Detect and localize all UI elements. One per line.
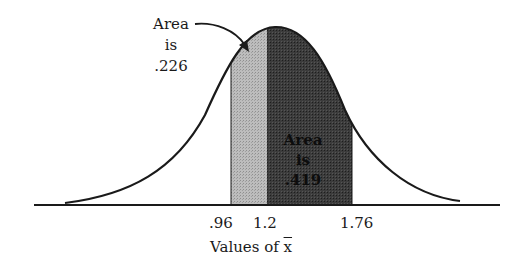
left-area-line2: is — [146, 35, 196, 56]
inner-area-line1: Area — [278, 130, 328, 150]
pointer-arrow — [195, 24, 245, 45]
left-area-label: Area is .226 — [146, 14, 196, 77]
x-bar-symbol: x — [284, 238, 292, 256]
inner-area-line3: .419 — [278, 170, 328, 190]
x-axis-label: Values of x — [210, 238, 292, 256]
left-area-line1: Area — [146, 14, 196, 35]
tick-label-12: 1.2 — [253, 214, 277, 232]
left-area-line3: .226 — [146, 56, 196, 77]
x-axis-label-prefix: Values of — [210, 238, 284, 256]
inner-area-line2: is — [278, 150, 328, 170]
normal-curve-diagram — [0, 0, 529, 274]
inner-area-label: Area is .419 — [278, 130, 328, 190]
tick-label-096: .96 — [209, 214, 233, 232]
tick-label-176: 1.76 — [340, 214, 373, 232]
